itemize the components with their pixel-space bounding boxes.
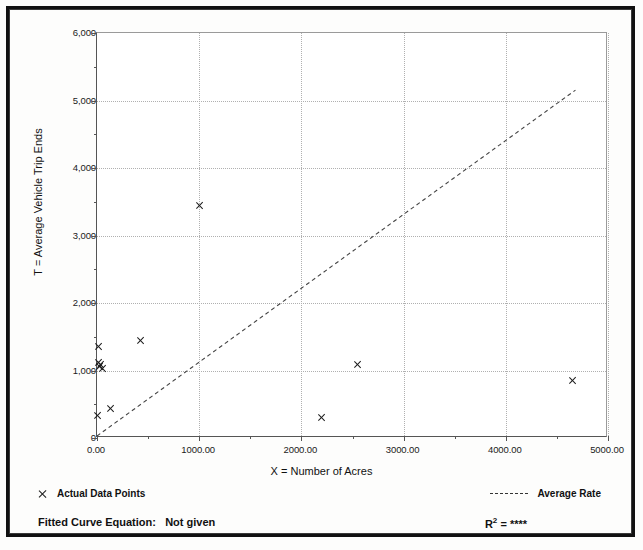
average-rate-line bbox=[97, 33, 606, 436]
legend-item-actual-data-points: Actual Data Points bbox=[38, 488, 145, 499]
x-axis-tick-label: 0.00 bbox=[87, 444, 105, 455]
chart-footer: Fitted Curve Equation: Not given R2 = **… bbox=[0, 516, 643, 536]
fitted-curve-label: Fitted Curve Equation: bbox=[38, 516, 156, 528]
x-axis-tick-minor bbox=[455, 436, 456, 439]
y-axis-tick-label: 0 bbox=[0, 432, 96, 443]
fitted-curve-equation: Fitted Curve Equation: Not given bbox=[38, 516, 215, 528]
x-axis-tick-minor bbox=[353, 436, 354, 439]
y-axis-tick-label: 5,000 bbox=[0, 94, 96, 105]
x-axis-tick bbox=[506, 436, 507, 441]
x-axis-tick bbox=[404, 436, 405, 441]
y-axis-tick bbox=[92, 438, 97, 439]
x-axis-tick-minor bbox=[250, 436, 251, 439]
r-squared-value: **** bbox=[510, 518, 527, 530]
dashed-line-icon bbox=[490, 493, 528, 494]
x-axis-tick-minor bbox=[148, 436, 149, 439]
y-axis-tick-label: 3,000 bbox=[0, 229, 96, 240]
y-axis-title: T = Average Vehicle Trip Ends bbox=[32, 72, 44, 332]
plot-wrapper: T = Average Vehicle Trip Ends 01,0002,00… bbox=[0, 0, 643, 550]
legend-item-average-rate: Average Rate bbox=[490, 488, 601, 499]
r-squared-equals: = bbox=[500, 518, 506, 530]
x-axis-tick-label: 4000.00 bbox=[488, 444, 522, 455]
x-axis-tick bbox=[608, 436, 609, 441]
r-squared-exponent: 2 bbox=[493, 516, 497, 525]
plot-area bbox=[96, 32, 607, 437]
chart-legend: Actual Data Points Average Rate bbox=[0, 488, 643, 508]
r-squared-label: R bbox=[485, 518, 493, 530]
x-axis-tick-label: 2000.00 bbox=[284, 444, 318, 455]
y-axis-tick-label: 6,000 bbox=[0, 27, 96, 38]
x-axis-tick bbox=[301, 436, 302, 441]
r-squared-stat: R2 = **** bbox=[485, 516, 527, 530]
x-axis-tick-label: 1000.00 bbox=[181, 444, 215, 455]
x-axis-title: X = Number of Acres bbox=[0, 465, 643, 477]
y-axis-tick-label: 4,000 bbox=[0, 162, 96, 173]
legend-label-average-rate: Average Rate bbox=[537, 488, 601, 499]
legend-label-actual-data-points: Actual Data Points bbox=[57, 488, 145, 499]
x-axis-tick-label: 3000.00 bbox=[386, 444, 420, 455]
fitted-curve-value: Not given bbox=[165, 516, 215, 528]
y-axis-tick-label: 2,000 bbox=[0, 297, 96, 308]
x-axis-tick bbox=[97, 436, 98, 441]
x-axis-tick bbox=[199, 436, 200, 441]
x-marker-icon bbox=[38, 489, 48, 499]
gridline-vertical bbox=[608, 33, 609, 436]
x-axis-tick-label: 5000.00 bbox=[590, 444, 624, 455]
chart-page: T = Average Vehicle Trip Ends 01,0002,00… bbox=[0, 0, 643, 550]
y-axis-tick-label: 1,000 bbox=[0, 364, 96, 375]
x-axis-tick-minor bbox=[557, 436, 558, 439]
